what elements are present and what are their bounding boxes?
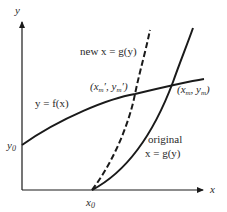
original-label-line1: original bbox=[148, 133, 182, 145]
diagram-canvas: y x y0 x0 y = f(x) new x = g(y) original… bbox=[0, 0, 227, 212]
orig-intersection-label: (xm, ym) bbox=[177, 83, 210, 97]
new-g-curve-label: new x = g(y) bbox=[80, 45, 137, 58]
x-axis-label: x bbox=[209, 183, 215, 195]
y0-label: y0 bbox=[6, 139, 16, 153]
x0-label: x0 bbox=[85, 196, 95, 210]
original-label-line2: x = g(y) bbox=[145, 147, 181, 160]
new-intersection-label: (xm′, ym′) bbox=[90, 80, 128, 94]
f-curve-label: y = f(x) bbox=[35, 97, 69, 110]
y-axis-label: y bbox=[14, 4, 20, 16]
